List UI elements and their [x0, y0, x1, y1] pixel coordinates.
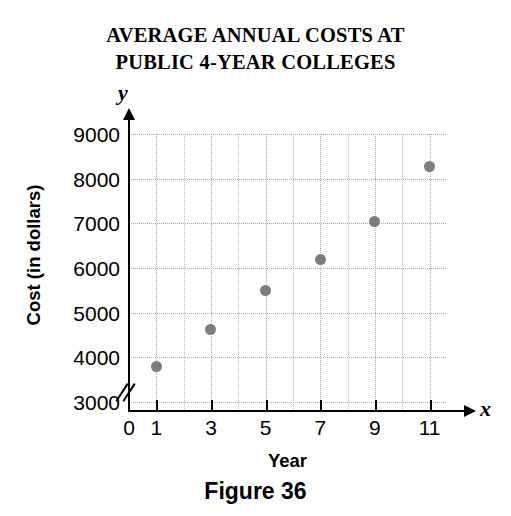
x-axis-tick-mark [320, 400, 322, 411]
data-point [151, 361, 162, 372]
x-axis-tick-label: 11 [410, 417, 450, 439]
gridline-horizontal [129, 268, 446, 269]
y-axis-tick-label: 9000 [40, 124, 120, 145]
x-axis-arrow-icon [464, 405, 476, 417]
x-axis-tick-mark [211, 400, 213, 411]
x-axis-variable-label: x [480, 396, 491, 422]
gridline-vertical [211, 134, 212, 411]
figure-caption: Figure 36 [0, 478, 511, 505]
x-axis-tick-mark [156, 400, 158, 411]
y-axis-tick-label: 6000 [40, 258, 120, 279]
y-axis-tick-labels: 9000800070006000500040003000 [36, 0, 120, 516]
gridline-vertical [375, 134, 376, 411]
y-axis-tick-label: 8000 [40, 169, 120, 190]
y-axis-arrow-icon [123, 108, 135, 120]
y-axis-line [128, 118, 130, 412]
gridline-vertical [430, 134, 431, 411]
gridline-vertical [238, 134, 239, 411]
x-axis-tick-mark [266, 400, 268, 411]
x-axis-tick-label: 3 [191, 417, 231, 439]
x-axis-tick-label: 5 [246, 417, 286, 439]
data-point [369, 216, 380, 227]
gridline-horizontal [129, 402, 446, 403]
gridline-horizontal [129, 179, 446, 180]
plot-area [129, 134, 446, 411]
gridline-vertical [266, 134, 267, 411]
gridline-horizontal [129, 134, 446, 135]
x-axis-tick-label: 1 [136, 417, 176, 439]
x-axis-tick-mark [375, 400, 377, 411]
y-axis-tick-label: 7000 [40, 213, 120, 234]
y-axis-tick-label: 4000 [40, 347, 120, 368]
gridline-vertical [402, 134, 403, 411]
data-point [205, 324, 216, 335]
data-point [315, 254, 326, 265]
x-axis-tick-label: 7 [300, 417, 340, 439]
gridline-horizontal [129, 313, 446, 314]
x-axis-tick-mark [430, 400, 432, 411]
gridline-horizontal [129, 357, 446, 358]
gridline-vertical [320, 134, 321, 411]
y-axis-tick-label: 3000 [40, 392, 120, 413]
x-axis-line [128, 410, 465, 412]
x-axis-title: Year [129, 450, 446, 472]
data-point [424, 161, 435, 172]
gridline-vertical [184, 134, 185, 411]
gridline-vertical [293, 134, 294, 411]
gridline-vertical [348, 134, 349, 411]
x-axis-tick-label: 9 [355, 417, 395, 439]
data-point [260, 285, 271, 296]
y-axis-title: Cost (in dollars) [23, 155, 45, 355]
gridline-horizontal [129, 223, 446, 224]
y-axis-tick-label: 5000 [40, 303, 120, 324]
